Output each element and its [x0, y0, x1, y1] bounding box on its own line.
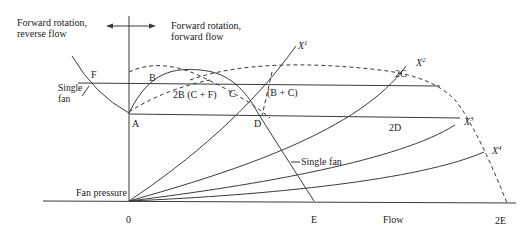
label-reverse-flow-line2: reverse flow [17, 28, 87, 39]
pressure-line-f-2c [78, 83, 440, 86]
single-fan-left-line1: Single [58, 83, 82, 94]
label-reverse-flow: Forward rotation, reverse flow [17, 17, 87, 39]
point-b-label: B [149, 72, 156, 83]
point-2d-label: 2D [389, 122, 401, 133]
system-curve-x1-label: X1 [298, 40, 308, 51]
x3-sup: 3 [470, 115, 474, 123]
arrow-left-head [106, 24, 113, 29]
system-curve-x2-label: X2 [416, 57, 426, 68]
label-forward-flow-line2: forward flow [171, 31, 241, 42]
point-2b-label: 2B (C + F) [173, 89, 217, 100]
point-c-label: C [229, 88, 236, 99]
point-2c-label: 2C [395, 68, 407, 79]
flow-axis [43, 201, 516, 203]
label-forward-flow-line1: Forward rotation, [171, 20, 241, 31]
x4-sup: 4 [498, 144, 502, 152]
label-forward-flow: Forward rotation, forward flow [171, 20, 241, 42]
point-b-plus-c-label: (B + C) [267, 87, 298, 98]
x2-sup: 2 [422, 56, 426, 64]
point-d-label: D [254, 118, 261, 129]
single-fan-left-label: Single fan [58, 83, 82, 105]
system-curve-x4-label: X4 [492, 145, 502, 156]
origin-label: 0 [126, 214, 131, 225]
flow-label: Flow [383, 214, 404, 225]
system-curve-x3-label: X3 [464, 116, 474, 127]
point-e-label: E [311, 214, 317, 225]
label-reverse-flow-line1: Forward rotation, [17, 17, 87, 28]
single-fan-right-label: Single fan [301, 156, 342, 167]
point-a-label: A [132, 118, 139, 129]
single-fan-left-line2: fan [58, 94, 82, 105]
leader-single-fan-left [82, 86, 89, 96]
point-2e-label: 2E [495, 215, 506, 226]
fan-pressure-label: Fan pressure [76, 187, 127, 198]
system-curve-x1 [129, 46, 296, 201]
x1-sup: 1 [304, 39, 308, 47]
arrow-right-head [149, 24, 156, 29]
pressure-line-a-2d [129, 114, 460, 118]
point-f-label: F [91, 69, 97, 80]
